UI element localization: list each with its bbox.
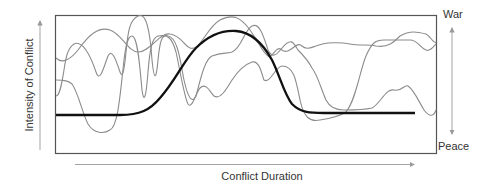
gray-line-c [56, 36, 436, 133]
y-axis-label: Intensity of Conflict [23, 39, 35, 132]
x-axis-label: Conflict Duration [221, 170, 302, 182]
war-label: War [443, 8, 463, 20]
plot-frame [56, 16, 437, 154]
conflict-diagram: Intensity of Conflict Conflict Duration … [0, 0, 490, 185]
peace-label: Peace [438, 140, 469, 152]
